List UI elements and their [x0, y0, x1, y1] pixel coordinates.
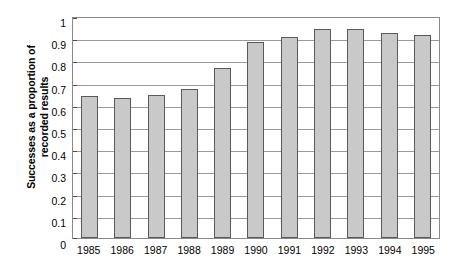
y-axis-tick-label: 1 — [28, 17, 66, 29]
bar-slot — [372, 18, 405, 238]
bar[interactable] — [114, 98, 131, 238]
bar-slot — [206, 18, 239, 238]
bar-slot — [140, 18, 173, 238]
x-axis-tick-label: 1994 — [373, 243, 406, 261]
y-axis-tick-label: 0.2 — [28, 195, 66, 207]
bar-slot — [173, 18, 206, 238]
bar[interactable] — [347, 29, 364, 238]
x-axis-tick-label: 1989 — [206, 243, 239, 261]
bar-chart: Successes as a proportion of recorded re… — [0, 0, 454, 268]
y-axis-tick-label: 0.9 — [28, 39, 66, 51]
bar-slot — [339, 18, 372, 238]
x-axis-tick-label: 1987 — [139, 243, 172, 261]
y-axis-tick-label: 0.6 — [28, 106, 66, 118]
y-axis-tick-label: 0.3 — [28, 172, 66, 184]
bar[interactable] — [281, 37, 298, 238]
bar-slot — [406, 18, 439, 238]
y-axis-tick-label: 0.7 — [28, 84, 66, 96]
bar-slot — [73, 18, 106, 238]
bar[interactable] — [148, 95, 165, 238]
x-axis-tick-label: 1992 — [306, 243, 339, 261]
x-axis-tick-label: 1991 — [273, 243, 306, 261]
x-axis-tick-label: 1986 — [105, 243, 138, 261]
y-axis-tick-label: 0.4 — [28, 150, 66, 162]
bar-slot — [273, 18, 306, 238]
y-axis-tick-label: 0.8 — [28, 61, 66, 73]
bar[interactable] — [314, 29, 331, 238]
plot-area — [72, 17, 440, 239]
bar-slot — [239, 18, 272, 238]
bar[interactable] — [381, 33, 398, 238]
x-axis-tick-label: 1988 — [172, 243, 205, 261]
x-axis-tick-label: 1990 — [239, 243, 272, 261]
x-axis-tick-label: 1993 — [340, 243, 373, 261]
x-axis-tick-label: 1995 — [407, 243, 440, 261]
bar-slot — [106, 18, 139, 238]
bars-group — [73, 18, 439, 238]
x-axis-tick-labels: 1985198619871988198919901991199219931994… — [72, 243, 440, 261]
bar-slot — [306, 18, 339, 238]
bar[interactable] — [414, 35, 431, 238]
y-axis-tick-labels: 10.90.80.70.60.50.40.30.20.10 — [28, 11, 66, 245]
bar[interactable] — [214, 68, 231, 238]
x-axis-tick-label: 1985 — [72, 243, 105, 261]
bar[interactable] — [247, 42, 264, 238]
y-axis-tick-mark — [73, 238, 77, 239]
bar[interactable] — [81, 96, 98, 238]
y-axis-tick-label: 0.1 — [28, 217, 66, 229]
bar[interactable] — [181, 89, 198, 238]
y-axis-tick-label: 0 — [28, 239, 66, 251]
y-axis-tick-label: 0.5 — [28, 128, 66, 140]
